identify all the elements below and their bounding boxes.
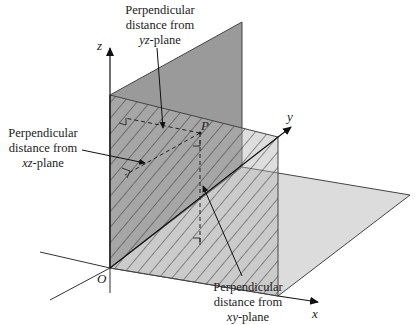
svg-text:Perpendicular: Perpendicular: [213, 280, 283, 294]
svg-text:yz-plane: yz-plane: [137, 33, 181, 47]
origin-label: O: [97, 271, 107, 286]
annotation-xz: Perpendicular distance from xz-plane: [8, 126, 78, 170]
y-axis-label: y: [285, 109, 293, 124]
svg-text:distance from: distance from: [126, 18, 195, 32]
point-p-label: P: [200, 118, 209, 133]
svg-text:xz-plane: xz-plane: [21, 156, 64, 170]
coordinate-planes-diagram: z y x O P Perpendicular distance from yz…: [0, 0, 419, 325]
negative-x-axis: [40, 252, 110, 268]
svg-text:distance from: distance from: [9, 141, 78, 155]
z-axis-label: z: [96, 38, 102, 53]
xz-plane-hatch: [110, 95, 278, 296]
svg-text:Perpendicular: Perpendicular: [8, 126, 78, 140]
annotation-yz: Perpendicular distance from yz-plane: [125, 3, 195, 47]
svg-text:Perpendicular: Perpendicular: [125, 3, 195, 17]
x-axis: [278, 296, 318, 302]
svg-text:xy-plane: xy-plane: [226, 310, 270, 324]
x-axis-label: x: [311, 306, 318, 321]
svg-text:distance from: distance from: [214, 295, 283, 309]
annotation-xy: Perpendicular distance from xy-plane: [213, 280, 283, 324]
